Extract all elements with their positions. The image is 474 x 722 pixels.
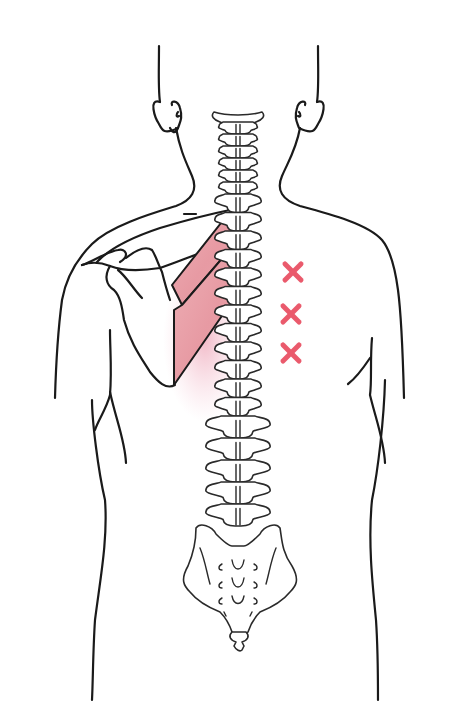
trigger-point-markers <box>283 264 301 361</box>
vertebra <box>219 134 258 146</box>
vertebra <box>206 416 270 438</box>
x-marker-icon <box>285 264 301 280</box>
vertebra <box>206 438 270 460</box>
x-marker-icon <box>283 345 299 361</box>
vertebra <box>219 182 258 194</box>
vertebra <box>219 122 258 134</box>
anatomy-figure <box>0 0 474 722</box>
vertebra <box>206 460 270 482</box>
x-marker-icon <box>283 306 299 322</box>
vertebra <box>219 146 258 158</box>
sacrum <box>184 525 297 651</box>
vertebra <box>219 170 258 182</box>
vertebra <box>215 194 261 213</box>
vertebra <box>206 482 270 504</box>
vertebra <box>206 504 270 526</box>
vertebra <box>219 158 258 170</box>
